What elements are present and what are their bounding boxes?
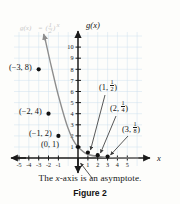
x-tick-2: 2 [96,161,99,168]
x-tick-neg1: -1 [56,161,61,168]
point-2-quarter [96,153,100,157]
x-tick-4: 4 [116,161,119,168]
x-tick-neg2: -2 [46,161,51,168]
x-tick-neg3: -3 [36,161,41,168]
watermark-gx: g(x) [20,24,32,32]
point-neg2-4 [46,112,50,116]
point-label-2-quarter: (2, 14) [110,100,128,113]
paren-close: ) [137,125,140,134]
point-label-neg3-8: (−3, 8) [9,63,32,72]
x-tick-5: 5 [126,161,129,168]
point-label-1-half: (1, 12) [99,79,117,92]
leader-3 [111,136,129,155]
point-neg1-2 [56,134,60,138]
y-tick-4: 4 [70,110,73,117]
point-0-1 [76,145,80,149]
y-axis-label: g(x) [86,20,100,30]
point-1-half [86,150,90,154]
x-tick-labels: -5 -4 -3 -2 -1 1 2 3 4 5 [16,161,128,168]
figure-number-label: Figure 2 [0,188,180,198]
watermark-paren-close: ) [52,24,56,32]
y-tick-1: 1 [70,143,73,150]
leader-2 [101,116,117,153]
x-tick-1: 1 [86,161,89,168]
point-neg3-8 [37,67,41,71]
function-equation-watermark: g(x) = ( 1 2 ) x [20,21,61,36]
paren-close: ) [114,83,117,92]
y-tick-9: 9 [70,54,73,61]
caption-pre: The [39,173,56,183]
x-axis-label: x [156,153,161,163]
y-tick-3: 3 [70,121,73,128]
point-label-3-eighth: (3, 18) [122,121,140,134]
watermark-exponent: x [56,21,61,29]
y-tick-6: 6 [70,88,73,95]
y-tick-8: 8 [70,66,73,73]
x-tick-3: 3 [106,161,109,168]
curve-arrow-head [44,34,46,41]
caption-post: -axis is an asymptote. [60,173,142,183]
point-label-0-1: (0, 1) [41,140,59,149]
point-3-eighth [106,155,110,159]
paren-close: ) [125,104,128,113]
watermark-den: 2 [49,27,53,35]
x-tick-neg5: -5 [16,161,21,168]
y-tick-7: 7 [70,77,73,84]
asymptote-caption: The x-axis is an asymptote. [0,173,180,183]
y-tick-10: 10 [67,43,73,50]
point-label-neg2-4: (−2, 4) [19,107,42,116]
point-label-neg1-2: (−1, 2) [29,129,52,138]
y-tick-5: 5 [70,99,73,106]
watermark-equals: = [38,24,43,32]
x-tick-neg4: -4 [26,161,31,168]
